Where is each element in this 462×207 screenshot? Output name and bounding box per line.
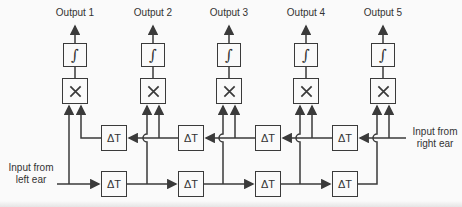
integral-symbol: ∫ xyxy=(379,46,387,64)
integrator-box-2: ∫ xyxy=(141,43,165,67)
input-left-line1: Input from xyxy=(5,162,57,174)
integrator-box-5: ∫ xyxy=(371,43,395,67)
multiplier-box-2 xyxy=(140,78,166,104)
multiply-icon xyxy=(68,84,83,99)
jeffress-delay-line-diagram: { "diagram": { "outputs": ["Output 1", "… xyxy=(0,0,462,207)
output-label-4: Output 4 xyxy=(274,7,338,18)
integral-symbol: ∫ xyxy=(302,46,310,64)
right-ear-tap-1 xyxy=(81,106,101,138)
multiply-icon xyxy=(146,84,161,99)
multiplier-box-1 xyxy=(62,78,88,104)
input-right-line1: Input from xyxy=(409,126,461,138)
delay-symbol: ΔT xyxy=(261,132,275,144)
output-label-1: Output 1 xyxy=(43,7,107,18)
multiplier-box-3 xyxy=(216,78,242,104)
left-ear-tap-4 xyxy=(296,106,300,184)
integral-symbol: ∫ xyxy=(225,46,233,64)
integrator-box-1: ∫ xyxy=(63,43,87,67)
multiplier-box-5 xyxy=(370,78,396,104)
integrator-box-3: ∫ xyxy=(217,43,241,67)
multiplier-box-4 xyxy=(293,78,319,104)
delay-box-bottom-1: ΔT xyxy=(101,171,127,197)
delay-symbol: ΔT xyxy=(261,178,275,190)
delay-box-top-1: ΔT xyxy=(101,125,127,151)
integral-symbol: ∫ xyxy=(71,46,79,64)
delay-box-bottom-3: ΔT xyxy=(255,171,281,197)
multiply-icon xyxy=(376,84,391,99)
delay-box-top-3: ΔT xyxy=(255,125,281,151)
scan-shadow xyxy=(0,201,462,207)
left-ear-tap-3 xyxy=(219,106,223,184)
output-label-5: Output 5 xyxy=(351,7,415,18)
integrator-box-4: ∫ xyxy=(294,43,318,67)
delay-symbol: ΔT xyxy=(107,132,121,144)
delay-box-top-4: ΔT xyxy=(332,125,358,151)
delay-symbol: ΔT xyxy=(338,178,352,190)
delay-box-top-2: ΔT xyxy=(178,125,204,151)
delay-symbol: ΔT xyxy=(184,178,198,190)
output-label-2: Output 2 xyxy=(121,7,185,18)
input-right-line2: right ear xyxy=(409,138,461,150)
input-left-line2: left ear xyxy=(5,174,57,186)
left-ear-tap-2 xyxy=(143,106,147,184)
input-left-label: Input from left ear xyxy=(5,162,57,186)
delay-symbol: ΔT xyxy=(184,132,198,144)
delay-box-bottom-2: ΔT xyxy=(178,171,204,197)
input-right-label: Input from right ear xyxy=(409,126,461,150)
multiply-icon xyxy=(299,84,314,99)
left-ear-tap-5 xyxy=(358,106,377,184)
delay-symbol: ΔT xyxy=(107,178,121,190)
output-label-3: Output 3 xyxy=(197,7,261,18)
delay-symbol: ΔT xyxy=(338,132,352,144)
multiply-icon xyxy=(222,84,237,99)
delay-box-bottom-4: ΔT xyxy=(332,171,358,197)
integral-symbol: ∫ xyxy=(149,46,157,64)
